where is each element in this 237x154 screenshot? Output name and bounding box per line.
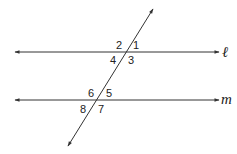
- line-l-label: ℓ: [222, 44, 228, 60]
- angle-label-1: 1: [133, 39, 139, 51]
- line-m-label: m: [221, 91, 232, 107]
- parallel-lines-diagram: ℓ m 12345678: [0, 0, 237, 154]
- angle-label-7: 7: [98, 103, 104, 115]
- angle-label-5: 5: [106, 87, 112, 99]
- angle-label-2: 2: [116, 39, 122, 51]
- angle-label-6: 6: [88, 87, 94, 99]
- angle-label-3: 3: [128, 54, 134, 66]
- transversal-line: [68, 9, 153, 146]
- angle-label-8: 8: [80, 103, 86, 115]
- angle-label-4: 4: [110, 54, 116, 66]
- angle-labels: 12345678: [80, 39, 139, 115]
